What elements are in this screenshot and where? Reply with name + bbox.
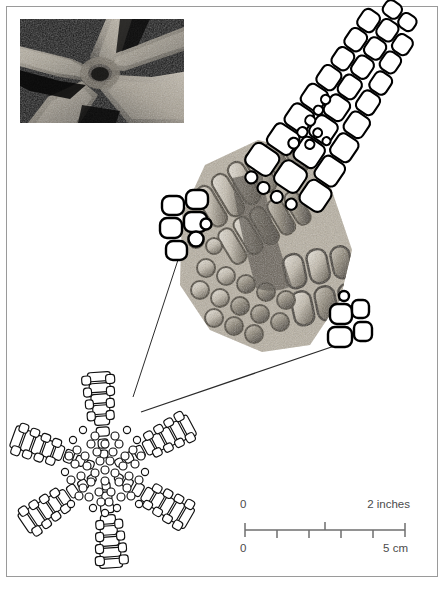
scale-inches-right-label: 2 inches <box>367 498 410 510</box>
figure-plate: 0 2 inches 0 5 cm <box>0 0 447 600</box>
sea-star-surface-photograph <box>20 19 184 123</box>
scale-inches-left-label: 0 <box>240 498 246 510</box>
dual-unit-scale-bar: 0 2 inches 0 5 cm <box>240 498 410 560</box>
scale-bar-rule <box>240 518 410 546</box>
figure-caption <box>8 584 428 598</box>
